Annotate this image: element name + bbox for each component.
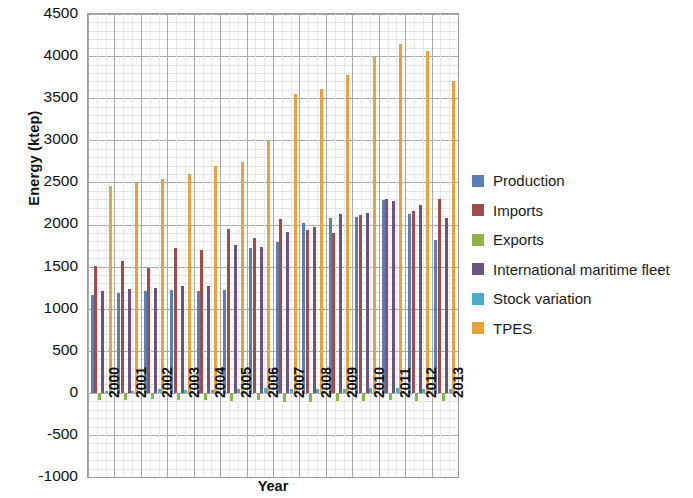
bar-tpes-2005 [241, 162, 244, 393]
bar-international-maritime-fleet-2000 [101, 291, 104, 393]
x-axis-tick-label-2013: 2013 [450, 367, 466, 398]
y-axis-tick-label: 3000 [10, 130, 78, 148]
bar-group-2013 [432, 14, 458, 477]
x-axis-title: Year [87, 478, 459, 494]
y-axis-tick-label: -500 [10, 425, 78, 443]
bar-group-2002 [141, 14, 167, 477]
plot-area [87, 13, 459, 478]
chart-legend: ProductionImportsExportsInternational ma… [472, 172, 690, 349]
bar-group-2006 [247, 14, 273, 477]
bar-tpes-2007 [294, 94, 297, 392]
bar-international-maritime-fleet-2005 [234, 245, 237, 393]
bar-exports-2011 [389, 393, 392, 401]
bar-group-2012 [405, 14, 431, 477]
bar-exports-2000 [98, 393, 101, 400]
bar-exports-2010 [362, 393, 365, 401]
bar-group-2004 [194, 14, 220, 477]
bar-tpes-2012 [426, 51, 429, 392]
bar-group-2008 [299, 14, 325, 477]
legend-item-label: Exports [493, 232, 544, 247]
y-axis-tick-label: 1000 [10, 299, 78, 317]
energy-balance-bar-chart: Energy (ktep) 45004000350030002500200015… [0, 0, 693, 498]
bar-group-2001 [114, 14, 140, 477]
legend-item-imports[interactable]: Imports [472, 202, 690, 219]
x-axis-tick-label-2007: 2007 [291, 367, 307, 398]
bar-international-maritime-fleet-2011 [392, 201, 395, 393]
legend-item-stock-variation[interactable]: Stock variation [472, 290, 690, 307]
bar-exports-2002 [151, 393, 154, 399]
y-axis-tick-label: 4500 [10, 4, 78, 22]
bar-international-maritime-fleet-2012 [419, 205, 422, 393]
bar-exports-2001 [124, 393, 127, 400]
bar-tpes-2003 [188, 174, 191, 393]
bar-tpes-2000 [109, 186, 112, 393]
bar-production-2000 [91, 295, 94, 393]
legend-item-tpes[interactable]: TPES [472, 320, 690, 337]
legend-item-label: TPES [493, 321, 532, 336]
y-axis-tick-label: 500 [10, 341, 78, 359]
legend-item-international-maritime-fleet[interactable]: International maritime fleet [472, 261, 690, 278]
legend-swatch-icon [472, 263, 484, 275]
legend-item-production[interactable]: Production [472, 172, 690, 189]
legend-swatch-icon [472, 175, 484, 187]
x-axis-tick-label-2008: 2008 [318, 367, 334, 398]
x-axis-tick-label-2001: 2001 [133, 367, 149, 398]
bar-exports-2008 [309, 393, 312, 402]
x-axis-tick-label-2006: 2006 [265, 367, 281, 398]
bar-tpes-2011 [399, 44, 402, 393]
y-axis-tick-label: 2000 [10, 214, 78, 232]
bar-tpes-2013 [452, 81, 455, 392]
bar-international-maritime-fleet-2008 [313, 227, 316, 393]
bar-international-maritime-fleet-2002 [154, 288, 157, 393]
bar-international-maritime-fleet-2007 [286, 232, 289, 393]
y-axis-tick-label: 2500 [10, 172, 78, 190]
y-axis-tick-label: 4000 [10, 46, 78, 64]
legend-swatch-icon [472, 293, 484, 305]
x-axis-tick-label-2009: 2009 [344, 367, 360, 398]
y-axis-tick-label: 1500 [10, 257, 78, 275]
bar-international-maritime-fleet-2004 [207, 286, 210, 392]
x-axis-tick-label-2011: 2011 [397, 367, 413, 397]
x-axis-tick-label-2002: 2002 [159, 367, 175, 398]
bar-exports-2013 [442, 393, 445, 401]
bar-group-2007 [273, 14, 299, 477]
bar-group-2005 [220, 14, 246, 477]
x-axis-tick-label-2003: 2003 [186, 367, 202, 398]
bar-tpes-2004 [214, 166, 217, 393]
bar-imports-2000 [94, 266, 97, 393]
bar-tpes-2002 [161, 179, 164, 393]
y-axis-tick-labels: 450040003500300025002000150010005000-500… [8, 0, 78, 498]
bar-exports-2012 [415, 393, 418, 401]
bar-exports-2003 [177, 393, 180, 400]
bar-international-maritime-fleet-2006 [260, 247, 263, 393]
bar-group-2010 [352, 14, 378, 477]
bar-imports-2011 [385, 199, 388, 393]
bar-production-2012 [408, 214, 411, 393]
legend-swatch-icon [472, 234, 484, 246]
x-axis-tick-label-2000: 2000 [106, 367, 122, 398]
bar-imports-2012 [412, 211, 415, 393]
legend-item-exports[interactable]: Exports [472, 231, 690, 248]
bar-imports-2013 [438, 199, 441, 393]
legend-item-label: International maritime fleet [493, 262, 670, 277]
y-axis-tick-label: 0 [10, 383, 78, 401]
bar-exports-2005 [230, 393, 233, 401]
bar-exports-2009 [336, 393, 339, 401]
bar-international-maritime-fleet-2001 [128, 289, 131, 393]
x-axis-tick-label-2004: 2004 [212, 367, 228, 398]
legend-swatch-icon [472, 322, 484, 334]
legend-swatch-icon [472, 204, 484, 216]
bar-tpes-2008 [320, 89, 323, 392]
bar-production-2011 [382, 200, 385, 393]
bar-exports-2006 [257, 393, 260, 400]
y-axis-tick-label: -1000 [10, 467, 78, 485]
bar-tpes-2006 [267, 141, 270, 393]
y-axis-tick-label: 3500 [10, 88, 78, 106]
x-axis-tick-label-2010: 2010 [371, 367, 387, 398]
x-axis-tick-label-2005: 2005 [238, 367, 254, 398]
bar-tpes-2001 [135, 183, 138, 393]
bar-exports-2004 [204, 393, 207, 401]
bar-international-maritime-fleet-2010 [366, 213, 369, 393]
bar-tpes-2010 [373, 57, 376, 392]
bar-group-2003 [167, 14, 193, 477]
